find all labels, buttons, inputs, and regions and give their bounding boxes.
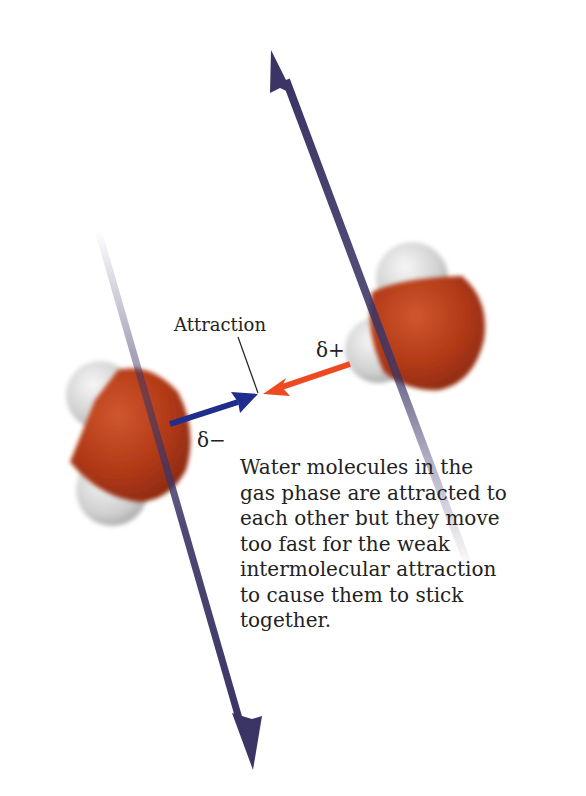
water-molecules-diagram: [0, 0, 586, 796]
positive-dipole-arrow: [263, 364, 350, 396]
attraction-label: Attraction: [174, 314, 266, 335]
diagram-caption: Water molecules in the gas phase are att…: [240, 455, 510, 634]
delta-plus-label: δ+: [316, 338, 345, 362]
arrowhead-down-icon: [232, 713, 262, 770]
left-water-molecule: [66, 361, 191, 526]
right-water-molecule: [345, 242, 485, 390]
attraction-leader-line: [238, 337, 258, 393]
arrowhead-up-icon: [270, 50, 293, 94]
delta-minus-label: δ−: [197, 428, 226, 452]
oxygen-atom: [370, 276, 485, 390]
